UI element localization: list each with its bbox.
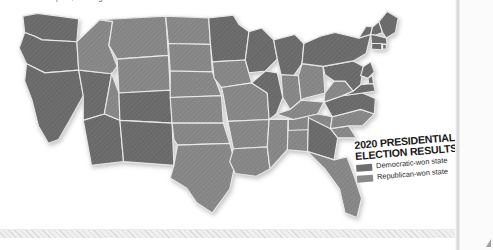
legend-swatch-democratic-icon <box>356 163 373 171</box>
us-map-svg[interactable] <box>0 6 436 244</box>
election-map[interactable] <box>0 6 436 244</box>
state-north-dakota[interactable] <box>166 16 211 44</box>
state-oklahoma[interactable] <box>172 123 230 145</box>
state-mississippi[interactable] <box>267 119 288 169</box>
state-ohio[interactable] <box>298 64 325 101</box>
state-maine[interactable] <box>379 11 398 38</box>
state-arkansas[interactable] <box>228 120 269 149</box>
legend-swatch-republican-icon <box>357 174 374 182</box>
state-rhode-island[interactable] <box>383 44 387 49</box>
state-kansas[interactable] <box>170 96 223 123</box>
body-text-fragment: polls, showing the data. <box>56 0 236 2</box>
state-minnesota[interactable] <box>209 15 249 62</box>
document-page: polls, showing the data. <box>0 0 493 250</box>
state-california[interactable] <box>25 64 84 144</box>
state-new-mexico[interactable] <box>120 120 174 165</box>
page-bottom-margin <box>0 238 456 250</box>
page-right-gutter <box>460 0 493 250</box>
state-wyoming[interactable] <box>117 55 170 93</box>
state-wisconsin[interactable] <box>245 28 277 73</box>
state-arizona[interactable] <box>83 114 123 165</box>
state-south-dakota[interactable] <box>168 44 212 72</box>
state-louisiana[interactable] <box>230 147 270 176</box>
state-florida[interactable] <box>308 152 362 218</box>
state-texas[interactable] <box>170 143 235 213</box>
state-colorado[interactable] <box>119 90 172 123</box>
state-connecticut[interactable] <box>372 44 382 50</box>
map-legend: 2020 PRESIDENTIAL ELECTION RESULTS Democ… <box>354 132 461 183</box>
